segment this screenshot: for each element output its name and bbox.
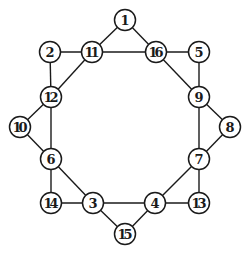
node-1: 1 [115,10,136,31]
node-label: 12 [44,90,59,105]
node-7: 7 [189,149,210,170]
node-15: 15 [115,224,136,245]
node-5: 5 [189,42,210,63]
node-13: 13 [189,193,210,214]
node-2: 2 [40,42,61,63]
node-label: 2 [45,45,54,60]
node-label: 14 [44,196,59,211]
node-11: 11 [82,42,103,63]
node-label: 1 [120,13,129,28]
node-label: 6 [46,152,55,167]
node-label: 9 [194,90,203,105]
node-label: 11 [85,45,100,60]
node-label: 10 [13,120,28,135]
node-label: 15 [118,227,133,242]
node-label: 13 [192,196,207,211]
node-12: 12 [41,87,62,108]
node-10: 10 [10,117,31,138]
node-14: 14 [41,193,62,214]
nodes-layer: 12111651291086714341315 [10,10,241,245]
graph-diagram: 12111651291086714341315 [0,0,250,258]
node-16: 16 [146,42,167,63]
node-label: 8 [225,120,234,135]
node-label: 7 [194,152,203,167]
node-label: 5 [194,45,203,60]
node-4: 4 [145,193,166,214]
node-3: 3 [83,193,104,214]
node-8: 8 [220,117,241,138]
node-6: 6 [41,149,62,170]
node-9: 9 [189,87,210,108]
node-label: 16 [149,45,164,60]
node-label: 3 [88,196,97,211]
node-label: 4 [150,196,159,211]
